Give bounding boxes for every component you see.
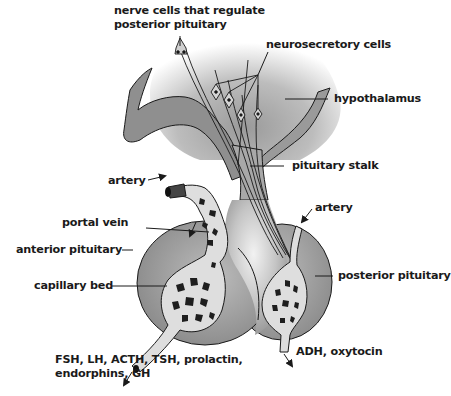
label-hypothalamus: hypothalamus [334, 92, 421, 106]
label-neurosecretory-cells: neurosecretory cells [266, 38, 391, 52]
label-anterior-hormones: FSH, LH, ACTH, TSH, prolactin, endorphin… [55, 353, 243, 381]
label-posterior-pituitary: posterior pituitary [338, 269, 451, 283]
nerve-cell-bodies [175, 38, 187, 54]
label-posterior-hormones: ADH, oxytocin [296, 345, 383, 359]
label-artery-left: artery [108, 174, 146, 188]
label-anterior-hormones-line2: endorphins, GH [55, 367, 243, 381]
label-anterior-pituitary: anterior pituitary [16, 243, 122, 257]
label-portal-vein: portal vein [62, 216, 128, 230]
label-pituitary-stalk: pituitary stalk [292, 159, 378, 173]
label-nerve-cells-line1: nerve cells that regulate [114, 4, 265, 18]
label-nerve-cells: nerve cells that regulate posterior pitu… [114, 4, 265, 32]
label-nerve-cells-line2: posterior pituitary [114, 18, 265, 32]
label-artery-right: artery [315, 201, 353, 215]
label-anterior-hormones-line1: FSH, LH, ACTH, TSH, prolactin, [55, 353, 243, 367]
label-capillary-bed: capillary bed [34, 279, 113, 293]
